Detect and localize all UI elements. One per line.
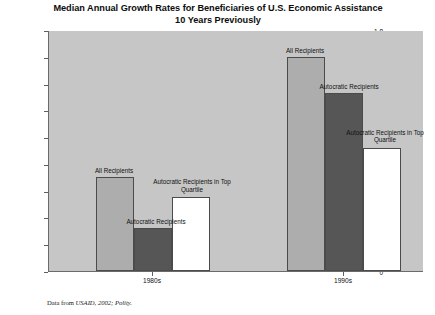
chart-figure: Median Annual Growth Rates for Beneficia… — [0, 0, 435, 315]
chart-title-line-1: Median Annual Growth Rates for Beneficia… — [53, 3, 382, 13]
plot-area — [48, 31, 423, 272]
x-tick-label: 1980s — [143, 277, 161, 284]
x-tick-mark — [152, 272, 153, 276]
source-note: Data from USAID, 2002; Polity. — [47, 299, 132, 306]
bar-label: All Recipients — [79, 167, 149, 175]
bar-label: Autocratic Recipients in Top Quartile — [147, 178, 237, 193]
x-tick-label: 1990s — [334, 277, 352, 284]
bar-label: All Recipients — [270, 47, 340, 55]
y-tick-mark — [44, 272, 48, 273]
chart-title: Median Annual Growth Rates for Beneficia… — [18, 3, 418, 26]
chart-title-line-2: 10 Years Previously — [18, 15, 418, 27]
source-note-prefix: Data from — [47, 299, 76, 306]
bar-label: Autocratic Recipients — [306, 83, 392, 91]
source-note-emphasis: USAID, 2002; Polity. — [76, 299, 132, 306]
bar — [134, 228, 172, 271]
bar — [172, 197, 210, 271]
bar — [325, 93, 363, 271]
bar — [363, 148, 401, 271]
x-tick-mark — [343, 272, 344, 276]
bar-label: Autocratic Recipients in Top Quartile — [339, 129, 431, 144]
bar-label: Autocratic Recipients — [113, 218, 199, 226]
